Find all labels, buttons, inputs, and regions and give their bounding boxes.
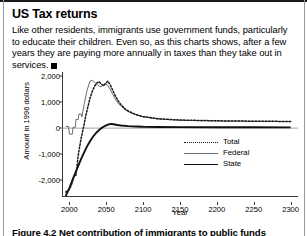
y-tick-label: 2,000 [41,71,60,80]
right-rule [304,0,305,236]
y-tick-mark [59,102,62,103]
chart-legend: Total Federal State [184,136,249,169]
series-line-federal [66,80,291,134]
y-tick-label: 1,000 [41,98,60,107]
x-axis-line [62,196,298,197]
legend-label-federal: Federal [223,148,249,157]
left-rule [3,0,4,236]
y-tick-mark [59,180,62,181]
x-tick-label: 2100 [135,205,152,214]
x-tick-mark [180,202,181,205]
x-tick-mark [291,202,292,205]
x-tick-mark [143,202,144,205]
article-deck: Like other residents, immigrants use gov… [12,24,296,70]
plot-area: 2,0001,0000-1,000-2,000 2000205021002150… [62,72,298,196]
legend-item-state: State [184,158,249,169]
y-tick-mark [59,75,62,76]
x-tick-label: 2250 [245,205,262,214]
x-tick-label: 2300 [282,205,299,214]
chart: Amount in 1996 dollars 2,0001,0000-1,000… [8,66,300,216]
legend-swatch-federal [184,149,218,157]
series-line-total [66,81,291,192]
figure-caption: Figure 4.2 Net contribution of immigrant… [12,227,300,236]
legend-swatch-state [184,160,218,168]
x-tick-label: 2050 [98,205,115,214]
legend-label-state: State [223,159,241,168]
top-rule [0,0,307,2]
legend-swatch-total [184,138,218,146]
article-clipping: US Tax returns Like other residents, imm… [0,0,307,236]
legend-item-total: Total [184,136,249,147]
y-tick-label: -2,000 [38,176,60,185]
x-axis-label: Year [172,208,187,217]
series-canvas [62,72,298,196]
y-tick-mark [59,154,62,155]
x-tick-mark [69,202,70,205]
y-tick-mark [59,128,62,129]
page-title: US Tax returns [12,8,97,21]
x-tick-mark [106,202,107,205]
series-line-state [66,124,291,196]
x-tick-label: 2200 [208,205,225,214]
legend-label-total: Total [223,137,239,146]
legend-item-federal: Federal [184,147,249,158]
y-axis-label: Amount in 1996 dollars [22,82,34,178]
x-tick-mark [217,202,218,205]
x-tick-label: 2000 [61,205,78,214]
x-tick-mark [254,202,255,205]
y-tick-label: -1,000 [38,150,60,159]
